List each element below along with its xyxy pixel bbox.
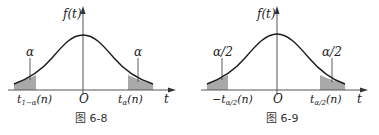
x-axis-label: t [357, 92, 362, 106]
right-area-label: α/2 [322, 45, 342, 59]
left-tick-label: t1−α(n) [17, 93, 52, 107]
x-axis-arrow-icon [168, 88, 176, 93]
right-tick-label: tα/2(n) [310, 93, 342, 107]
figure-6-8: f(t) α α t1−α(n) O tα(n) t 图 6-8 [8, 6, 176, 125]
figure-caption: 图 6-8 [75, 112, 107, 125]
diagram-canvas: f(t) α α t1−α(n) O tα(n) t 图 6-8 f(t) α/… [0, 0, 379, 135]
right-tick-label: tα(n) [118, 93, 143, 107]
left-area-label: α [26, 45, 34, 59]
right-area-label: α [134, 45, 142, 59]
origin-label: O [79, 92, 89, 106]
y-axis-label: f(t) [62, 7, 82, 21]
left-tick-label: −tα/2(n) [212, 93, 253, 107]
left-area-label: α/2 [213, 45, 233, 59]
figure-6-9: f(t) α/2 α/2 −tα/2(n) O tα/2(n) t 图 6-9 [201, 6, 368, 125]
x-axis-label: t [164, 92, 169, 106]
figure-caption: 图 6-9 [266, 112, 298, 125]
y-axis-label: f(t) [256, 7, 276, 21]
origin-label: O [273, 92, 283, 106]
